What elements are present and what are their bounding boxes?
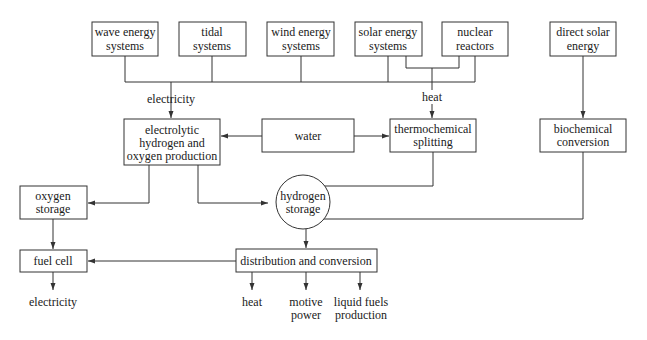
arrow-electrolytic-to-oxygen (88, 165, 149, 203)
svg-text:solar energy: solar energy (359, 25, 418, 39)
svg-text:hydrogen: hydrogen (280, 189, 325, 203)
node-biochemical-conversion: biochemical conversion (540, 119, 626, 152)
svg-text:biochemical: biochemical (554, 122, 613, 136)
node-distribution-conversion: distribution and conversion (236, 249, 377, 272)
label-motive-power-1: motive (289, 295, 322, 309)
label-liquid-fuels-1: liquid fuels (334, 295, 389, 309)
node-wave-energy-systems: wave energy systems (92, 22, 158, 56)
label-electricity-output: electricity (29, 295, 77, 309)
svg-text:electrolytic: electrolytic (145, 123, 199, 137)
svg-text:conversion: conversion (557, 135, 610, 149)
node-electrolytic-production: electrolytic hydrogen and oxygen product… (124, 119, 220, 165)
svg-text:reactors: reactors (456, 39, 494, 53)
svg-text:systems: systems (369, 39, 407, 53)
svg-text:hydrogen and: hydrogen and (139, 136, 205, 150)
svg-text:water: water (295, 129, 322, 143)
svg-text:storage: storage (286, 202, 321, 216)
node-thermochemical-splitting: thermochemical splitting (390, 119, 476, 152)
svg-text:oxygen production: oxygen production (127, 149, 217, 163)
node-wind-energy-systems: wind energy systems (267, 22, 334, 56)
svg-text:wave energy: wave energy (95, 25, 156, 39)
label-heat-input: heat (422, 90, 443, 104)
label-heat-output: heat (242, 295, 263, 309)
node-hydrogen-storage: hydrogen storage (276, 175, 330, 229)
svg-text:systems: systems (282, 39, 320, 53)
node-oxygen-storage: oxygen storage (20, 186, 87, 219)
label-liquid-fuels-2: production (335, 308, 387, 322)
node-solar-energy-systems: solar energy systems (355, 22, 422, 56)
node-water: water (262, 119, 354, 152)
label-electricity-input: electricity (147, 92, 195, 106)
svg-text:tidal: tidal (201, 25, 223, 39)
svg-text:oxygen: oxygen (35, 189, 70, 203)
svg-text:storage: storage (36, 202, 71, 216)
svg-text:direct solar: direct solar (556, 25, 610, 39)
heat-bus-lines (406, 56, 459, 118)
hydrogen-energy-diagram: wave energy systems tidal systems wind e… (0, 0, 647, 340)
node-nuclear-reactors: nuclear reactors (442, 22, 508, 56)
svg-text:wind energy: wind energy (271, 25, 330, 39)
svg-text:thermochemical: thermochemical (394, 122, 472, 136)
node-fuel-cell: fuel cell (20, 250, 87, 272)
svg-text:distribution and conversion: distribution and conversion (240, 254, 371, 268)
svg-text:splitting: splitting (413, 135, 452, 149)
svg-text:nuclear: nuclear (457, 25, 492, 39)
svg-text:systems: systems (193, 39, 231, 53)
node-tidal-systems: tidal systems (179, 22, 246, 56)
svg-text:systems: systems (106, 39, 144, 53)
node-direct-solar-energy: direct solar energy (550, 22, 616, 56)
electricity-bus-lines (125, 56, 475, 118)
arrow-electrolytic-to-hydrogen (198, 165, 268, 203)
svg-text:energy: energy (567, 39, 599, 53)
label-motive-power-2: power (291, 308, 321, 322)
svg-text:fuel cell: fuel cell (34, 254, 74, 268)
